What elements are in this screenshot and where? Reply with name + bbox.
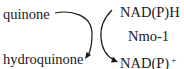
cofactor-arrow-icon (101, 10, 118, 63)
substrate-to-product-arrow-icon (55, 12, 92, 59)
reaction-arrows (0, 0, 184, 69)
